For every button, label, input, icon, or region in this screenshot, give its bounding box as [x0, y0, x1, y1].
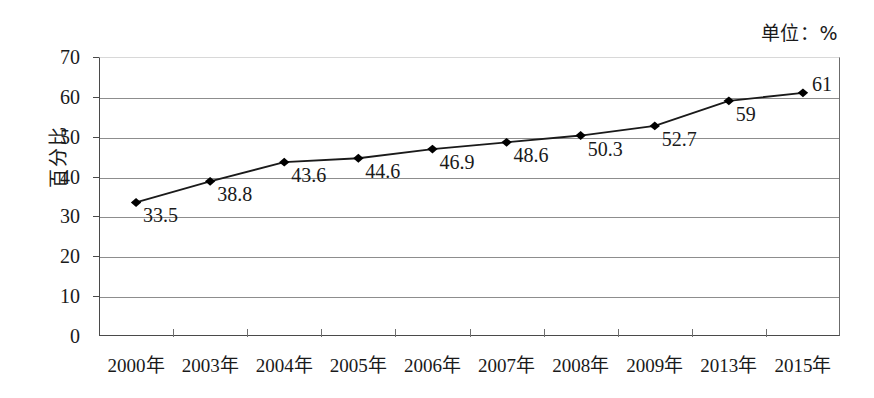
- x-axis-tick-label: 2005年: [330, 350, 387, 377]
- gridline: [100, 257, 839, 258]
- y-axis-tick-label: 0: [22, 326, 80, 346]
- data-point-label: 50.3: [588, 139, 623, 159]
- data-point-label: 44.6: [365, 161, 400, 181]
- x-axis-tick-label: 2006年: [404, 350, 461, 377]
- y-axis-tick-mark: [93, 137, 99, 138]
- data-point-label: 33.5: [143, 205, 178, 225]
- y-axis-tick-label: 20: [22, 246, 80, 266]
- x-axis-tick-mark: [247, 329, 248, 337]
- gridline: [100, 98, 839, 99]
- x-axis-tick-label: 2008年: [552, 350, 609, 377]
- data-point-label: 43.6: [291, 165, 326, 185]
- y-axis-tick-mark: [93, 296, 99, 297]
- y-axis-tick-label: 30: [22, 206, 80, 226]
- data-point-label: 52.7: [662, 129, 697, 149]
- plot-area: [99, 57, 840, 336]
- x-axis-tick-mark: [173, 329, 174, 337]
- x-axis-tick-label: 2004年: [256, 350, 313, 377]
- data-point-label: 59: [736, 104, 756, 124]
- y-axis-tick-mark: [93, 57, 99, 58]
- y-axis-tick-mark: [93, 256, 99, 257]
- x-axis-tick-mark: [618, 329, 619, 337]
- y-axis-tick-label: 40: [22, 167, 80, 187]
- y-axis-tick-mark: [93, 177, 99, 178]
- x-axis-tick-mark: [321, 329, 322, 337]
- y-axis-tick-label: 50: [22, 127, 80, 147]
- y-axis-tick-mark: [93, 97, 99, 98]
- data-point-label: 61: [812, 74, 832, 94]
- y-axis-tick-label: 70: [22, 47, 80, 67]
- y-axis-tick-mark: [93, 216, 99, 217]
- y-axis-tick-labels: 010203040506070: [0, 0, 99, 398]
- x-axis-tick-label: 2003年: [182, 350, 239, 377]
- gridline: [100, 217, 839, 218]
- y-axis-tick-label: 10: [22, 286, 80, 306]
- x-axis-tick-label: 2015年: [774, 350, 831, 377]
- x-axis-tick-label: 2000年: [108, 350, 165, 377]
- y-axis-tick-label: 60: [22, 87, 80, 107]
- x-axis-tick-label: 2007年: [478, 350, 535, 377]
- x-axis-tick-mark: [766, 329, 767, 337]
- x-axis-tick-label: 2013年: [700, 350, 757, 377]
- x-axis-tick-mark: [470, 329, 471, 337]
- unit-note-label: 单位：%: [761, 18, 838, 45]
- gridline: [100, 138, 839, 139]
- x-axis-tick-label: 2009年: [626, 350, 683, 377]
- data-point-label: 46.9: [439, 152, 474, 172]
- x-axis-tick-mark: [692, 329, 693, 337]
- gridline: [100, 178, 839, 179]
- data-point-label: 48.6: [514, 145, 549, 165]
- gridline: [100, 297, 839, 298]
- x-axis-tick-mark: [395, 329, 396, 337]
- line-chart: 单位：% 百分比 010203040506070 2000年2003年2004年…: [0, 0, 874, 398]
- data-point-label: 38.8: [217, 184, 252, 204]
- x-axis-tick-mark: [544, 329, 545, 337]
